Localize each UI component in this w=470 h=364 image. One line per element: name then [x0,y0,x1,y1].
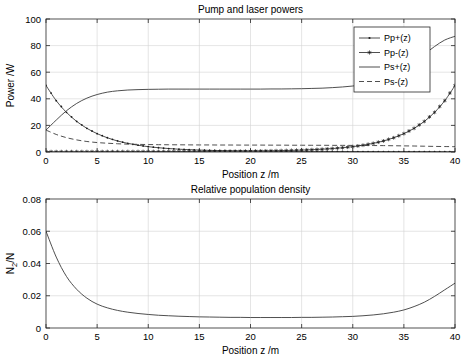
data-marker-dot [122,141,124,143]
data-marker-dot [173,148,175,150]
x-tick-label: 30 [347,331,358,342]
data-marker-dot [81,124,83,126]
data-marker-dot [112,138,114,140]
legend-label: Ps-(z) [384,77,408,87]
x-tick-label: 5 [94,155,99,166]
y-tick-label: 0.08 [23,194,42,205]
y-tick-label: 80 [30,40,41,51]
data-marker-dot [142,145,144,147]
y-tick-label: 0 [36,147,41,158]
population-density-chart: Relative population density0510152025303… [0,185,470,364]
data-marker-dot [106,137,108,139]
data-marker-dot [55,100,57,102]
x-tick-label: 0 [43,331,48,342]
x-tick-label: 15 [194,331,205,342]
x-tick-label: 10 [143,155,154,166]
data-marker-dot [137,144,139,146]
pump-powers-chart: Pump and laser powers0510152025303540020… [0,0,470,185]
y-axis-label: Power /W [5,63,16,107]
gridlines [46,199,455,328]
data-marker-dot [71,116,73,118]
data-marker-dot [91,130,93,132]
y-tick-label: 0.02 [23,290,42,301]
y-tick-label: 60 [30,67,41,78]
data-marker-dot [152,146,154,148]
x-tick-label: 40 [450,155,461,166]
x-tick-label: 20 [245,155,256,166]
y-tick-label: 20 [30,120,41,131]
y-tick-label: 0 [36,323,41,334]
subplot-relative-population-density: Relative population density0510152025303… [0,185,470,364]
legend-label: Pp+(z) [384,33,411,43]
chart-legend[interactable]: Pp+(z)Pp-(z)Ps+(z)Ps-(z) [354,27,430,92]
chart-title: Pump and laser powers [198,4,303,15]
y-tick-label: 40 [30,93,41,104]
y-axis-label: N2/N [5,253,19,274]
y-tick-label: 0.06 [23,226,42,237]
data-marker-dot [147,146,149,148]
x-tick-label: 10 [143,331,154,342]
x-tick-label: 35 [399,155,410,166]
legend-label: Ps+(z) [384,62,410,72]
data-marker-dot [117,140,119,142]
data-marker-dot [76,121,78,123]
x-tick-label: 40 [450,331,461,342]
x-tick-label: 15 [194,155,205,166]
top-chart-root: Pump and laser powers0510152025303540020… [5,4,460,180]
axis-ticks: 051015202530354000.020.040.060.08 [23,194,461,343]
x-tick-label: 25 [296,155,307,166]
data-marker-dot [86,127,88,129]
data-marker-dot [96,133,98,135]
legend-marker-dot [368,37,370,39]
x-axis-label: Position z /m [222,169,279,180]
data-marker-dot [158,147,160,149]
y-tick-label: 0.04 [23,258,42,269]
bottom-chart-root: Relative population density0510152025303… [5,185,460,356]
data-marker-dot [163,147,165,149]
x-axis-label: Position z /m [222,345,279,356]
x-tick-label: 5 [94,331,99,342]
x-tick-label: 25 [296,331,307,342]
x-tick-label: 20 [245,331,256,342]
subplot-pump-and-laser-powers: Pump and laser powers0510152025303540020… [0,0,470,185]
data-marker-dot [50,92,52,94]
matlab-figure: Pump and laser powers0510152025303540020… [0,0,470,364]
chart-title: Relative population density [191,185,311,195]
legend-label: Pp-(z) [384,48,409,58]
x-tick-label: 35 [399,331,410,342]
y-tick-label: 100 [25,14,41,25]
data-marker-dot [101,135,103,137]
x-tick-label: 30 [347,155,358,166]
data-marker-dot [60,106,62,108]
data-marker-dot [168,148,170,150]
x-tick-label: 0 [43,155,48,166]
